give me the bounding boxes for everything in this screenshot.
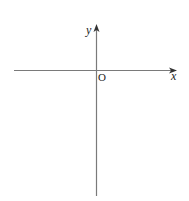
x-axis-label: x (170, 69, 177, 83)
origin-label: O (98, 71, 106, 83)
coordinate-plane: x y O (0, 0, 189, 201)
y-axis-label: y (85, 23, 92, 37)
